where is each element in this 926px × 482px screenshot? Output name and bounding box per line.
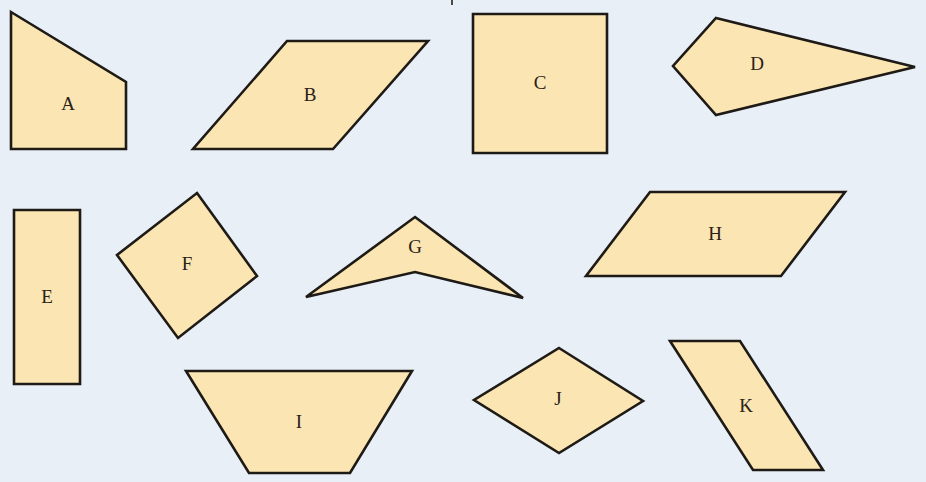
shape-h-label: H xyxy=(708,223,722,244)
shape-h: H xyxy=(586,192,845,276)
shape-c-label: C xyxy=(534,72,547,93)
shape-a-label: A xyxy=(61,93,75,114)
shapes-canvas: ABCDEFGHIJK xyxy=(0,0,926,482)
shape-e-label: E xyxy=(41,286,53,307)
shape-c: C xyxy=(473,14,607,153)
shape-d-outline xyxy=(673,18,915,115)
shape-k: K xyxy=(670,341,823,470)
shape-i-label: I xyxy=(296,411,302,432)
shape-f: F xyxy=(117,193,257,338)
shape-a: A xyxy=(11,12,126,149)
shapes-layer: ABCDEFGHIJK xyxy=(11,12,915,473)
shape-b-label: B xyxy=(304,84,317,105)
shape-g-label: G xyxy=(408,236,422,257)
shape-e: E xyxy=(14,210,80,384)
shape-j: J xyxy=(474,348,643,453)
shape-f-label: F xyxy=(182,253,193,274)
shape-k-label: K xyxy=(739,395,753,416)
shapes-diagram: ABCDEFGHIJK xyxy=(0,0,926,482)
shape-d-label: D xyxy=(750,53,764,74)
shape-d: D xyxy=(673,18,915,115)
shape-a-outline xyxy=(11,12,126,149)
shape-b: B xyxy=(193,41,428,149)
shape-g: G xyxy=(306,217,523,298)
shape-i: I xyxy=(186,371,412,473)
shape-j-label: J xyxy=(554,388,561,409)
shape-g-outline xyxy=(306,217,523,298)
